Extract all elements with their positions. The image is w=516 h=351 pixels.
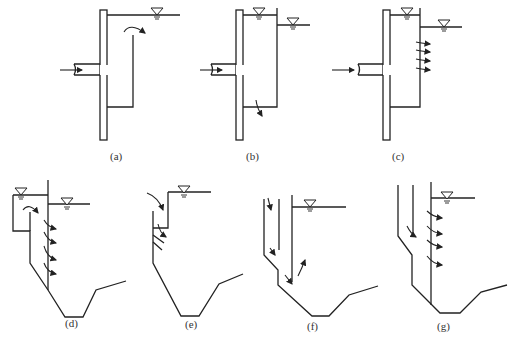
panel-c: (c) <box>332 8 462 163</box>
diagram-canvas: (a) (b) (c) <box>0 0 516 351</box>
deflector-plates <box>153 235 164 250</box>
water-level-icon <box>287 18 299 29</box>
chamber-outline <box>107 15 180 107</box>
flow-arrow-icon <box>416 50 430 52</box>
panel-label-d: (d) <box>65 317 78 330</box>
inflow-arrow-icon <box>147 193 163 210</box>
panel-label-e: (e) <box>185 318 198 331</box>
water-level-icon <box>15 188 27 199</box>
flow-arrow-icon <box>416 68 430 70</box>
panel-b: (b) <box>200 8 310 163</box>
water-level-icon <box>438 20 450 31</box>
panel-e: (e) <box>147 186 243 331</box>
water-level-icon <box>253 8 265 19</box>
flow-arrow-icon <box>44 232 56 243</box>
flow-arrow-icon <box>44 263 56 274</box>
water-level-icon <box>401 8 413 19</box>
tank-outline <box>264 199 378 316</box>
panel-label-c: (c) <box>392 150 405 163</box>
flow-arrow-icon <box>427 211 442 218</box>
flow-arrow-icon <box>427 240 442 247</box>
flow-arrow-icon <box>44 246 56 260</box>
panel-g: (g) <box>398 182 507 333</box>
inflow-arrow-icon <box>268 198 271 210</box>
chamber-outline <box>390 8 420 107</box>
flow-arrow-icon <box>285 275 292 284</box>
panel-label-f: (f) <box>307 320 318 333</box>
flow-arrow-icon <box>407 226 416 237</box>
panel-label-a: (a) <box>110 150 123 163</box>
tank-outline <box>398 185 507 313</box>
upflow-arrow-icon <box>298 260 305 276</box>
panel-d: (d) <box>13 180 126 330</box>
inlet-pipe <box>358 64 383 75</box>
panel-a: (a) <box>60 8 180 163</box>
chamber-outline <box>243 8 277 107</box>
flow-arrow-icon <box>158 224 166 237</box>
water-level-icon <box>151 8 163 19</box>
water-level-icon <box>304 200 316 211</box>
flow-arrow-icon <box>416 59 430 61</box>
tank-outline <box>153 211 243 316</box>
panel-label-b: (b) <box>246 150 259 163</box>
flow-arrow-icon <box>44 220 56 229</box>
flow-arrow-icon <box>427 256 442 265</box>
outflow-arrow-icon <box>256 100 262 116</box>
overflow-arrow-icon <box>124 27 145 33</box>
panel-label-g: (g) <box>437 320 450 333</box>
flow-arrow-icon <box>427 226 442 234</box>
flow-arrow-icon <box>416 42 430 44</box>
panel-f: (f) <box>264 195 378 333</box>
flow-arrow-icon <box>270 248 275 255</box>
